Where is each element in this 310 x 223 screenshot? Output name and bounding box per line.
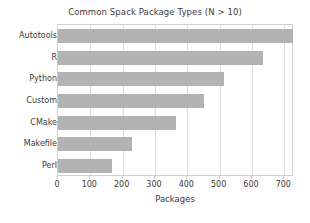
x-axis-tick-mark: [89, 176, 90, 179]
bar: [58, 94, 204, 108]
bar-row: [58, 72, 294, 86]
x-axis-tick-mark: [251, 176, 252, 179]
x-axis-tick-label: 500: [211, 180, 226, 189]
bar: [58, 159, 112, 173]
x-axis-tick-mark: [122, 176, 123, 179]
y-axis-tick-label: Autotools: [0, 30, 57, 39]
bar-row: [58, 137, 294, 151]
bar-row: [58, 116, 294, 130]
y-axis-tick-label: Python: [0, 74, 57, 83]
y-axis-tick-label: Perl: [0, 161, 57, 170]
bar-row: [58, 51, 294, 65]
x-axis-tick-mark: [57, 176, 58, 179]
y-axis-tick-label: Makefile: [0, 139, 57, 148]
x-axis-tick-label: 0: [54, 180, 59, 189]
y-axis-tick-label: CMake: [0, 117, 57, 126]
plot-area: [57, 24, 293, 176]
x-axis-tick-label: 700: [276, 180, 291, 189]
x-axis-tick-mark: [283, 176, 284, 179]
bar-chart-figure: Common Spack Package Types (N > 10) Auto…: [0, 0, 310, 223]
bar: [58, 29, 293, 43]
bar: [58, 137, 132, 151]
x-axis-tick-label: 400: [179, 180, 194, 189]
bar-row: [58, 94, 294, 108]
bar: [58, 116, 176, 130]
x-axis-tick-label: 600: [243, 180, 258, 189]
bar: [58, 72, 224, 86]
y-axis-tick-label: R: [0, 52, 57, 61]
x-axis-label: Packages: [57, 194, 293, 204]
x-axis-tick-label: 100: [82, 180, 97, 189]
y-axis-tick-label: Custom: [0, 96, 57, 105]
x-axis-tick-label: 300: [146, 180, 161, 189]
chart-title: Common Spack Package Types (N > 10): [0, 7, 310, 17]
bar: [58, 51, 263, 65]
x-axis-tick-mark: [186, 176, 187, 179]
x-axis-tick-label: 200: [114, 180, 129, 189]
bar-row: [58, 159, 294, 173]
x-axis-tick-mark: [219, 176, 220, 179]
x-axis-tick-mark: [154, 176, 155, 179]
bar-row: [58, 29, 294, 43]
